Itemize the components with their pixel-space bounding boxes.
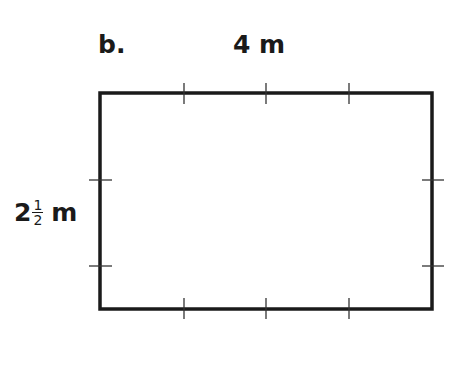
rectangle bbox=[100, 93, 432, 309]
tick-marks bbox=[89, 83, 444, 319]
rectangle-diagram bbox=[0, 0, 464, 370]
